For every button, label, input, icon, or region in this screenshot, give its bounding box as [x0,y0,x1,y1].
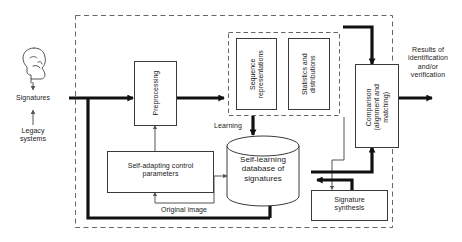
diagram-graphics [0,0,462,242]
edge-top-rail-to-comparison [343,27,372,64]
label-signature-synthesis: Signature synthesis [313,196,386,213]
label-comparison: Comparison (alignment and matching) [365,67,390,147]
label-results: Results of identification and/or verific… [396,46,460,79]
label-learning: Learning [206,122,250,130]
label-statistics-distributions: Statistics and distributions [301,38,318,110]
label-legacy-systems: Legacy systems [2,127,64,144]
edge-params-to-database [214,176,227,203]
label-original-image: Original image [144,206,224,214]
label-sequence-representations: Sequence representations [249,38,266,110]
label-database: Self-learning database of signatures [229,155,297,183]
label-self-adapting-parameters: Self-adapting control parameters [110,162,211,179]
diagram-canvas: Signatures Legacy systems Results of ide… [0,0,462,242]
edge-database-to-params [155,193,214,204]
label-signatures: Signatures [2,94,64,102]
label-preprocessing: Preprocessing [152,58,160,128]
head-profile-icon [23,48,45,83]
